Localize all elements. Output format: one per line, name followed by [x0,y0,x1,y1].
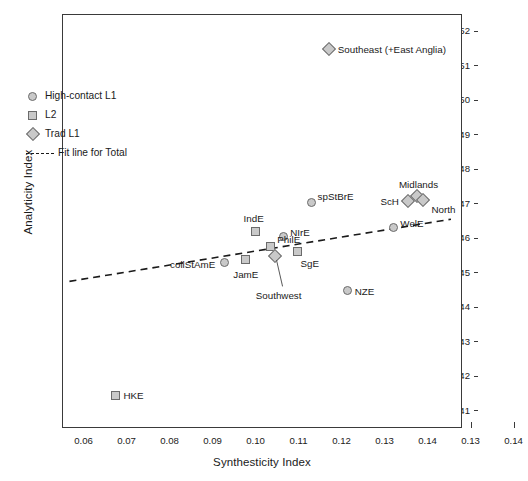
x-tick: 0.07 [107,428,147,446]
data-point-label: IndE [244,213,264,224]
square-marker-icon [293,247,302,256]
y-tick-mark [474,238,478,239]
circle-marker-icon [389,223,398,232]
y-tick-mark [474,410,478,411]
x-tick-label: 0.10 [236,435,276,446]
y-tick-mark [474,100,478,101]
y-tick-mark [474,341,478,342]
circle-marker-icon [307,198,316,207]
square-marker-icon [251,227,260,236]
x-tick: 0.06 [64,428,104,446]
legend-item-label: High-contact L1 [45,90,116,101]
x-tick: 0.12 [322,428,362,446]
x-tick-label: 0.08 [150,435,190,446]
data-point-label: North [431,204,455,215]
y-tick-mark [474,134,478,135]
x-tick: 0.14 [494,428,528,446]
data-point-label: spStBrE [318,191,354,202]
x-tick: 0.11 [279,428,319,446]
legend-dashline-icon [26,153,54,154]
y-tick-mark [474,169,478,170]
x-axis-title: Synthesticity Index [62,456,462,468]
data-point-label: WelE [400,218,423,229]
y-tick-mark [474,31,478,32]
y-tick-mark [474,272,478,273]
data-point-label: PhilE [277,234,300,245]
y-axis-title: Analyticity Index [22,122,34,262]
x-tick: 0.13 [451,428,491,446]
y-tick-mark [474,307,478,308]
x-tick: 0.08 [150,428,190,446]
x-tick: 0.09 [193,428,233,446]
legend-circle-icon [28,92,37,101]
y-tick-mark [474,376,478,377]
y-tick-mark [474,203,478,204]
x-tick-label: 0.14 [408,435,448,446]
data-point-label: Midlands [399,179,438,190]
x-tick-mark [514,422,515,428]
x-tick-label: 0.13 [451,435,491,446]
data-point-label: JamE [233,269,258,280]
x-tick: 0.10 [236,428,276,446]
x-tick-label: 0.11 [279,435,319,446]
x-tick-mark [471,422,472,428]
legend-item-label: L2 [45,109,56,120]
data-point-label: collStAmE [170,259,215,270]
circle-marker-icon [343,286,352,295]
square-marker-icon [241,255,250,264]
data-point-label: SgE [300,258,319,269]
x-tick: 0.13 [365,428,405,446]
circle-marker-icon [220,258,229,267]
x-tick-label: 0.13 [365,435,405,446]
legend-item-label: Trad L1 [45,128,80,139]
x-tick-label: 0.14 [494,435,528,446]
data-point-label: HKE [123,390,143,401]
legend-item-label: Fit line for Total [58,147,127,158]
x-tick-label: 0.09 [193,435,233,446]
plot-area: collStAmENIrEspStBrEWelENZEHKEJamEIndEPh… [62,14,462,428]
data-point-label: Southeast (+East Anglia) [338,44,446,55]
x-tick-label: 0.06 [64,435,104,446]
data-point-label: Southwest [256,290,302,301]
x-tick-label: 0.07 [107,435,147,446]
square-marker-icon [111,391,120,400]
data-point-label: NZE [355,286,375,297]
data-point-label: ScH [380,196,399,207]
x-tick-label: 0.12 [322,435,362,446]
y-tick-mark [474,65,478,66]
legend-square-icon [28,111,37,120]
x-tick: 0.14 [408,428,448,446]
